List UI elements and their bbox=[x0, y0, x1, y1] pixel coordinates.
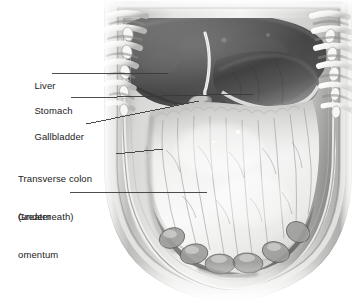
anatomy-figure: Liver Stomach Gallbladder Transverse col… bbox=[0, 0, 359, 301]
labels-layer: Liver Stomach Gallbladder Transverse col… bbox=[0, 0, 359, 301]
label-greater-omentum: Greater omentum bbox=[18, 186, 58, 286]
label-transverse-colon-line1: Transverse colon bbox=[18, 173, 92, 186]
label-stomach-line1: Stomach bbox=[34, 105, 72, 116]
label-liver-line1: Liver bbox=[34, 80, 55, 91]
label-greater-omentum-line1: Greater bbox=[18, 211, 58, 224]
label-greater-omentum-line2: omentum bbox=[18, 249, 58, 262]
label-gallbladder-line1: Gallbladder bbox=[34, 131, 84, 142]
